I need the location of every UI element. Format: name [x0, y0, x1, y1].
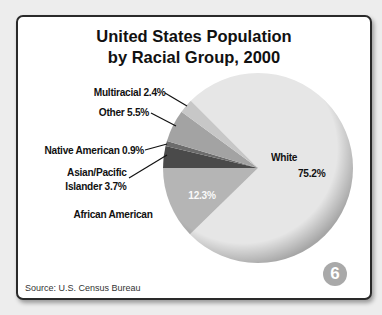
label-asian-pacific-line-1: Asian/Pacific: [67, 166, 127, 179]
value-white: 75.2%: [298, 167, 325, 180]
leader-line-other: [151, 113, 176, 126]
figure-number-badge: 6: [323, 262, 347, 286]
leader-line-multiracial: [165, 93, 187, 106]
leader-line-native-american: [145, 144, 167, 150]
label-asian-pacific-line-2: Islander 3.7%: [66, 180, 127, 193]
label-other: Other 5.5%: [99, 106, 149, 119]
value-african-american: 12.3%: [184, 189, 219, 202]
label-native-american: Native American 0.9%: [44, 144, 144, 157]
label-multiracial: Multiracial 2.4%: [93, 86, 165, 99]
leader-line-asian-pacific: [129, 155, 167, 178]
pie-chart: [18, 17, 370, 298]
source-note: Source: U.S. Census Bureau: [25, 283, 141, 293]
chart-card: United States Population by Racial Group…: [16, 15, 372, 300]
label-white: White: [271, 151, 297, 164]
label-african-american: African American: [65, 208, 162, 221]
